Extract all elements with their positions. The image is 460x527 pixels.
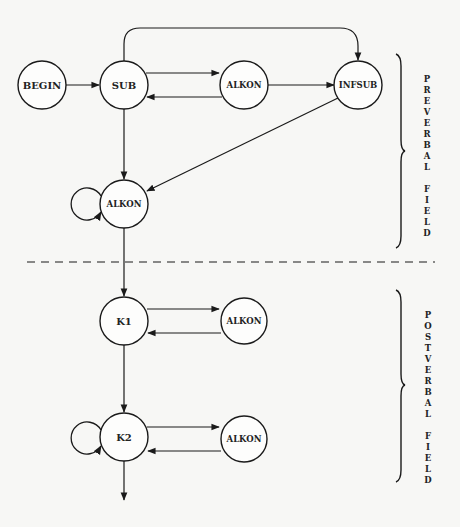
- svg-text:T: T: [425, 343, 432, 353]
- svg-text:L: L: [424, 162, 430, 172]
- edge-sub-infsub-arc: [124, 28, 358, 61]
- svg-text:F: F: [425, 431, 431, 441]
- node-sub: SUB: [100, 61, 148, 109]
- svg-text:B: B: [423, 140, 430, 150]
- svg-text:R: R: [423, 85, 431, 95]
- preverbal-brace: [396, 54, 405, 248]
- svg-text:S: S: [425, 332, 431, 342]
- svg-text:R: R: [424, 376, 432, 386]
- preverbal-field-label: P R E V E R B A L F I E L D: [423, 74, 432, 238]
- postverbal-brace: [396, 290, 405, 482]
- svg-text:F: F: [424, 184, 430, 194]
- node-label: ALKON: [226, 80, 262, 90]
- svg-text:O: O: [424, 321, 432, 331]
- svg-text:E: E: [424, 118, 431, 128]
- svg-text:P: P: [424, 74, 431, 84]
- svg-text:I: I: [426, 442, 430, 452]
- svg-text:I: I: [425, 195, 429, 205]
- node-infsub: INFSUB: [334, 61, 382, 109]
- node-begin: BEGIN: [18, 61, 66, 109]
- node-label: K2: [116, 432, 132, 443]
- svg-text:E: E: [424, 96, 431, 106]
- node-k1: K1: [100, 297, 148, 345]
- svg-text:E: E: [424, 206, 431, 216]
- postverbal-field-label: P O S T V E R B A L F I E L D: [424, 310, 433, 485]
- node-k2: K2: [100, 413, 148, 461]
- node-label: INFSUB: [339, 80, 378, 90]
- svg-text:E: E: [425, 365, 432, 375]
- node-alkon-k2: ALKON: [221, 416, 267, 462]
- node-alkon-k1: ALKON: [221, 298, 267, 344]
- svg-text:P: P: [425, 310, 432, 320]
- svg-text:V: V: [423, 107, 431, 117]
- svg-text:L: L: [424, 217, 430, 227]
- svg-text:A: A: [424, 398, 432, 408]
- svg-text:L: L: [425, 464, 431, 474]
- svg-text:V: V: [424, 354, 432, 364]
- svg-text:D: D: [423, 228, 431, 238]
- node-alkon-preverbal: ALKON: [100, 180, 148, 228]
- node-label: K1: [116, 316, 132, 327]
- node-label: ALKON: [226, 434, 262, 444]
- svg-text:B: B: [424, 387, 431, 397]
- svg-text:A: A: [423, 151, 431, 161]
- node-label: ALKON: [106, 199, 142, 209]
- svg-text:D: D: [424, 475, 432, 485]
- node-label: BEGIN: [23, 80, 61, 91]
- node-label: SUB: [112, 80, 136, 91]
- node-alkon-top: ALKON: [220, 61, 268, 109]
- state-diagram: BEGIN SUB ALKON INFSUB ALKON K1 ALKON K2…: [0, 0, 460, 527]
- svg-text:E: E: [425, 453, 432, 463]
- edge-infsub-alkon-pre: [147, 98, 338, 191]
- self-loop-k2: [71, 422, 101, 454]
- svg-text:L: L: [425, 409, 431, 419]
- self-loop-alkon-pre: [71, 188, 101, 220]
- svg-text:R: R: [423, 129, 431, 139]
- node-label: ALKON: [226, 316, 262, 326]
